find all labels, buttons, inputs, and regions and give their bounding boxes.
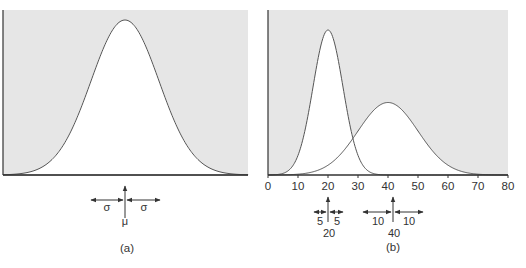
x-tick-label: 60 bbox=[442, 180, 455, 192]
figure: σ σ μ (a) 01020304050607080 5 5 20 10 10… bbox=[0, 0, 526, 268]
x-tick-label: 20 bbox=[322, 180, 335, 192]
sigma-right-label: σ bbox=[141, 201, 148, 213]
sigma-left-label: σ bbox=[104, 201, 111, 213]
x-tick-label: 50 bbox=[412, 180, 425, 192]
panel-b-x-ticks: 01020304050607080 bbox=[265, 175, 515, 192]
mean-40-label: 40 bbox=[388, 227, 400, 239]
caption-a: (a) bbox=[120, 242, 134, 254]
sd-10-right-label: 10 bbox=[403, 215, 415, 227]
panel-a: σ σ μ (a) bbox=[3, 10, 248, 254]
sd-5-right-label: 5 bbox=[334, 215, 340, 227]
x-tick-label: 10 bbox=[292, 180, 305, 192]
x-tick-label: 70 bbox=[472, 180, 485, 192]
x-tick-label: 0 bbox=[265, 180, 271, 192]
sd-5-left-label: 5 bbox=[317, 215, 323, 227]
x-tick-label: 40 bbox=[382, 180, 395, 192]
mean-20-label: 20 bbox=[323, 227, 335, 239]
sd-10-left-label: 10 bbox=[372, 215, 384, 227]
mean-label: μ bbox=[122, 215, 128, 227]
x-tick-label: 30 bbox=[352, 180, 365, 192]
x-tick-label: 80 bbox=[502, 180, 515, 192]
caption-b: (b) bbox=[386, 241, 400, 253]
panel-b: 01020304050607080 5 5 20 10 10 40 (b) bbox=[265, 10, 515, 253]
